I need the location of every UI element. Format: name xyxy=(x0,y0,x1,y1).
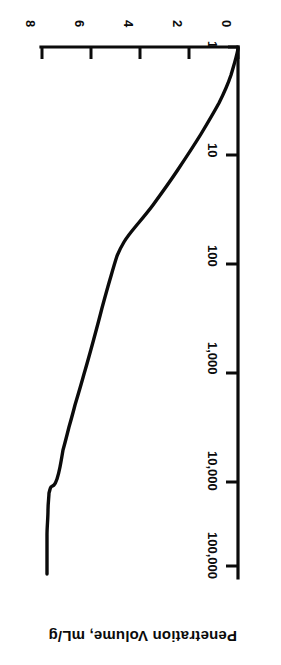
y-tick-label-4: 4 xyxy=(122,20,135,27)
x-tick-label-1: 1 xyxy=(206,41,219,48)
x-tick-label-10000: 10,000 xyxy=(206,451,219,491)
volume-axis-ticks xyxy=(42,47,238,59)
rotated-figure-content: 1 10 100 1,000 10,000 100,000 0 2 4 6 8 … xyxy=(0,0,281,665)
y-tick-label-2: 2 xyxy=(171,20,184,27)
plot-vector-canvas xyxy=(0,0,281,665)
x-tick-label-100: 100 xyxy=(206,245,219,267)
x-tick-label-100000: 100,000 xyxy=(206,532,219,579)
plot-area: 1 10 100 1,000 10,000 100,000 0 2 4 6 8 … xyxy=(0,0,281,665)
x-tick-label-10: 10 xyxy=(206,143,219,157)
y-tick-label-0: 0 xyxy=(220,20,233,27)
x-tick-label-1000: 1,000 xyxy=(206,342,219,375)
pressure-axis-ticks xyxy=(226,47,238,566)
y-tick-label-6: 6 xyxy=(73,20,86,27)
porosimetry-figure: 1 10 100 1,000 10,000 100,000 0 2 4 6 8 … xyxy=(0,0,281,665)
y-axis-title: Penetration Volume, mL/g xyxy=(48,628,237,645)
y-tick-label-8: 8 xyxy=(24,20,37,27)
penetration-volume-curve xyxy=(47,49,238,574)
